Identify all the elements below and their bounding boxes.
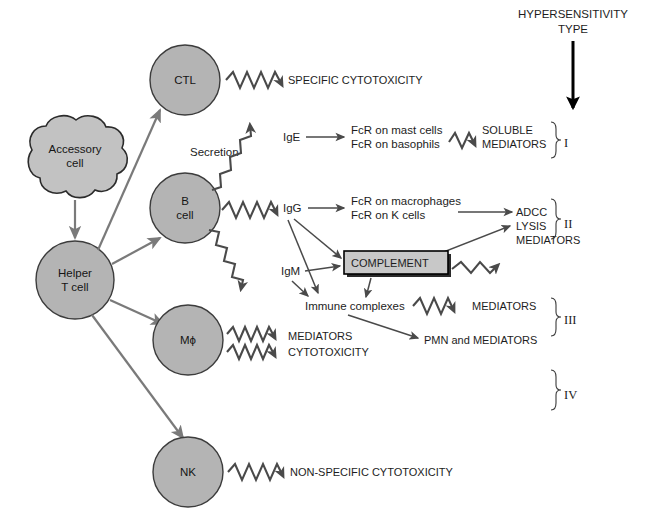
soluble-label: SOLUBLE (482, 124, 533, 136)
helper-t-cell-label-line2: T cell (61, 281, 88, 293)
complement-box[interactable]: COMPLEMENT (344, 251, 451, 277)
type-4-label: IV (564, 388, 577, 402)
b-cell-label-line1: B (181, 195, 189, 207)
type-1-label: I (564, 136, 568, 150)
helper-t-cell-label-line1: Helper (58, 267, 92, 279)
accessory-cell-node[interactable]: Accessory cell (28, 116, 127, 198)
b-cell-shape (150, 173, 220, 243)
diagram-canvas: HYPERSENSITIVITY TYPE Accessory cell Hel… (0, 0, 656, 512)
b-cell-node[interactable]: B cell (150, 173, 220, 243)
soluble-mediators-label: MEDIATORS (482, 138, 546, 150)
type-3-label: III (564, 313, 577, 327)
igm-label: IgM (281, 265, 300, 277)
fcr-kcells-label: FcR on K cells (351, 209, 425, 221)
ic-mediators-label: MEDIATORS (472, 300, 536, 312)
adcc-label: ADCC (516, 206, 547, 218)
fcr-mast-cells-label: FcR on mast cells (351, 124, 443, 136)
header-line2: TYPE (558, 23, 588, 35)
macrophage-cell-label: Mϕ (180, 334, 196, 346)
nk-cell-label: NK (180, 466, 196, 478)
accessory-cell-label-line1: Accessory (48, 143, 101, 155)
specific-cytotoxicity-label: SPECIFIC CYTOTOXICITY (288, 74, 423, 86)
immune-complexes-label: Immune complexes (305, 300, 405, 312)
macrophage-cell-node[interactable]: Mϕ (153, 305, 223, 375)
igg-label: IgG (283, 202, 302, 214)
lysis-label: LYSIS (516, 220, 546, 232)
fcr-basophils-label: FcR on basophils (351, 138, 440, 150)
helper-t-cell-node[interactable]: Helper T cell (36, 241, 114, 319)
header-line1: HYPERSENSITIVITY (518, 8, 628, 20)
b-cell-label-line2: cell (176, 209, 193, 221)
lysis-mediators-label: MEDIATORS (516, 234, 580, 246)
helper-t-cell-shape (36, 241, 114, 319)
nonspecific-cytotoxicity-label: NON-SPECIFIC CYTOTOXICITY (290, 466, 453, 478)
ige-label: IgE (283, 131, 301, 143)
nk-cell-node[interactable]: NK (153, 437, 223, 507)
ctl-cell-node[interactable]: CTL (150, 45, 220, 115)
pmn-and-mediators-label: PMN and MEDIATORS (424, 334, 537, 346)
accessory-cell-label-line2: cell (66, 157, 83, 169)
macrophage-cytotoxicity-label: CYTOTOXICITY (288, 346, 370, 358)
fcr-macrophages-label: FcR on macrophages (351, 195, 461, 207)
hypersensitivity-diagram: HYPERSENSITIVITY TYPE Accessory cell Hel… (0, 0, 656, 512)
type-2-label: II (564, 217, 572, 231)
ctl-cell-label: CTL (174, 74, 196, 86)
complement-label: COMPLEMENT (351, 257, 429, 269)
macrophage-mediators-label: MEDIATORS (288, 330, 352, 342)
